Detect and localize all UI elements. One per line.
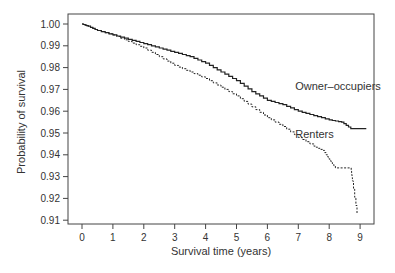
x-tick-label: 3 <box>172 232 178 243</box>
y-tick-label: 0.93 <box>41 171 61 182</box>
owner-occupiers-label: Owner–occupiers <box>295 80 381 92</box>
x-axis: 0123456789 <box>79 224 363 243</box>
y-tick-label: 0.95 <box>41 128 61 139</box>
x-tick-label: 8 <box>326 232 332 243</box>
annotations: Owner–occupiersRenters <box>295 80 381 140</box>
renters-label: Renters <box>295 128 334 140</box>
y-tick-label: 1.00 <box>41 19 61 30</box>
y-axis-label: Probability of survival <box>15 70 27 174</box>
x-tick-label: 0 <box>79 232 85 243</box>
y-tick-label: 0.91 <box>41 215 61 226</box>
owner-occupiers-curve <box>82 24 366 129</box>
x-tick-label: 9 <box>357 232 363 243</box>
y-tick-label: 0.96 <box>41 106 61 117</box>
x-tick-label: 4 <box>203 232 209 243</box>
x-tick-label: 1 <box>110 232 116 243</box>
x-tick-label: 7 <box>296 232 302 243</box>
y-tick-label: 0.98 <box>41 62 61 73</box>
y-tick-label: 0.97 <box>41 84 61 95</box>
y-tick-label: 0.92 <box>41 193 61 204</box>
y-axis: 0.910.920.930.940.950.960.970.980.991.00 <box>41 19 68 226</box>
y-tick-label: 0.99 <box>41 40 61 51</box>
survival-chart: 0.910.920.930.940.950.960.970.980.991.00… <box>0 0 395 273</box>
x-axis-label: Survival time (years) <box>171 245 271 257</box>
series-group <box>82 24 366 214</box>
x-tick-label: 2 <box>141 232 147 243</box>
renters-curve <box>82 24 357 214</box>
y-tick-label: 0.94 <box>41 149 61 160</box>
x-tick-label: 6 <box>265 232 271 243</box>
x-tick-label: 5 <box>234 232 240 243</box>
